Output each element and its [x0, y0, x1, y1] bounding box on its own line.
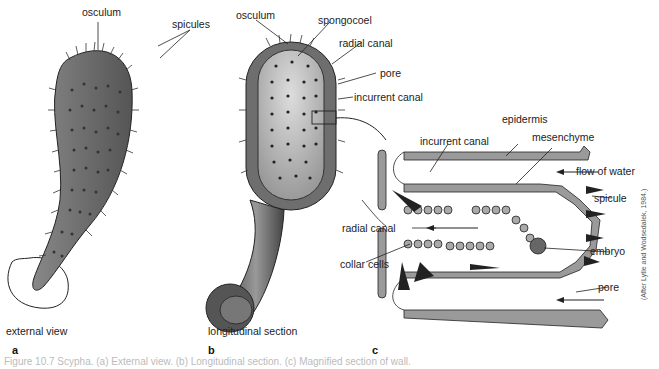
label-radial-canal-b: radial canal: [339, 37, 393, 49]
wall-section-magnified: [362, 146, 608, 328]
label-flow-of-water: flow of water: [576, 165, 635, 177]
label-spongocoel: spongocoel: [318, 14, 372, 26]
label-osculum-a: osculum: [82, 6, 121, 18]
diagram-artwork: [0, 0, 659, 369]
label-epidermis: epidermis: [502, 113, 548, 125]
label-embryo: embryo: [590, 245, 625, 257]
label-spicules: spicules: [172, 18, 210, 30]
panel-a-letter: a: [12, 344, 18, 356]
panel-c-letter: c: [372, 344, 378, 356]
label-osculum-b: osculum: [236, 9, 275, 21]
figure-credit: (After Lytle and Wodsedalek, 1984.): [640, 189, 647, 300]
longitudinal-section-sponge: [206, 20, 386, 332]
figure-caption: Figure 10.7 Scypha. (a) External view. (…: [4, 356, 411, 367]
label-collar-cells: collar cells: [340, 258, 389, 270]
label-mesenchyme: mesenchyme: [532, 131, 594, 143]
label-pore-c: pore: [598, 281, 619, 293]
label-radial-canal-c: radial canal: [342, 222, 396, 234]
panel-b-title: longitudinal section: [208, 325, 297, 337]
label-incurrent-canal-b: incurrent canal: [354, 91, 423, 103]
panel-b-letter: b: [208, 344, 215, 356]
external-view-sponge: [8, 22, 190, 308]
label-pore-b: pore: [380, 67, 401, 79]
panel-a-title: external view: [6, 325, 67, 337]
label-incurrent-canal-c: incurrent canal: [420, 135, 489, 147]
label-spicule: spicule: [594, 192, 627, 204]
